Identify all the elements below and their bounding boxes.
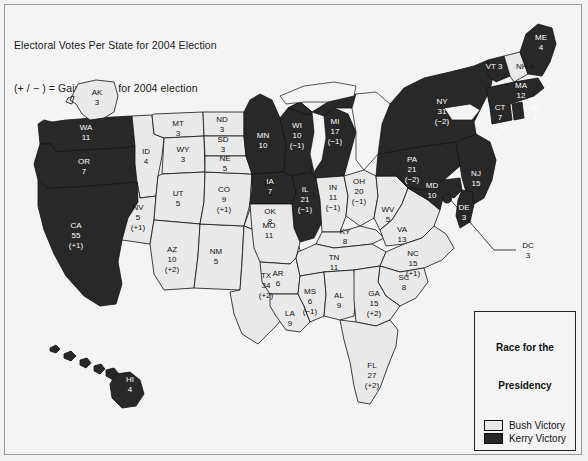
state-RI[interactable] <box>512 102 524 120</box>
label-AR-votes: 6 <box>276 279 281 288</box>
label-OR-name: OR <box>78 157 90 166</box>
label-IA-name: IA <box>266 177 274 186</box>
label-OH-votes: 20 <box>355 187 364 196</box>
state-DC-dot[interactable] <box>443 194 452 203</box>
label-MD-name: MD <box>426 181 439 190</box>
label-NM-name: NM <box>210 247 223 256</box>
label-AZ-name: AZ <box>167 245 177 254</box>
label-NC-name: NC <box>407 249 419 258</box>
label-WI-votes: 10 <box>293 131 302 140</box>
label-CO-change: (+1) <box>217 205 232 214</box>
label-LA-name: LA <box>285 309 295 318</box>
label-ID-votes: 4 <box>144 157 149 166</box>
label-TN-votes: 11 <box>330 263 339 272</box>
label-WY-votes: 3 <box>181 155 186 164</box>
label-VT: VT 3 <box>486 62 503 71</box>
label-CA-votes: 55 <box>72 231 81 240</box>
label-ND-votes: 3 <box>220 125 225 134</box>
label-GA-name: GA <box>368 289 380 298</box>
label-CA-change: (+1) <box>69 241 84 250</box>
label-GA-votes: 15 <box>370 299 379 308</box>
label-IL-change: (−1) <box>298 205 313 214</box>
label-NH: NH 4 <box>516 62 535 71</box>
label-AR-name: AR <box>272 269 283 278</box>
label-WA-name: WA <box>80 123 93 132</box>
label-IN-change: (−1) <box>326 203 341 212</box>
label-MN-name: MN <box>257 131 270 140</box>
label-SC-votes: 8 <box>402 283 407 292</box>
label-MI-change: (−1) <box>328 137 343 146</box>
legend-title-line1: Race for the <box>484 342 566 355</box>
label-NV-votes: 5 <box>136 213 141 222</box>
label-ND-name: ND <box>216 115 228 124</box>
label-TX-votes: 34 <box>262 281 271 290</box>
legend-row-bush[interactable]: Bush Victory <box>484 420 566 431</box>
legend-row-kerry[interactable]: Kerry Victory <box>484 433 566 444</box>
label-TX-change: (+2) <box>259 291 274 300</box>
label-DC-votes: 3 <box>526 251 531 260</box>
label-MS-change: (−1) <box>303 307 318 316</box>
label-CT-votes: 7 <box>498 113 503 122</box>
legend-title: Race for the Presidency <box>484 317 566 417</box>
label-WI-change: (−1) <box>290 141 305 150</box>
label-CO-name: CO <box>218 185 230 194</box>
label-ME-name: ME <box>535 33 547 42</box>
label-NC-votes: 15 <box>409 259 418 268</box>
state-AK[interactable] <box>66 80 118 120</box>
label-CT-name: CT <box>495 103 506 112</box>
label-NY-votes: 31 <box>438 107 447 116</box>
label-PA-votes: 21 <box>408 165 417 174</box>
label-OH-name: OH <box>353 177 365 186</box>
label-MO-votes: 11 <box>265 231 274 240</box>
state-NM[interactable] <box>194 224 244 290</box>
label-RI-name: RI <box>531 103 539 112</box>
label-MN-votes: 10 <box>259 141 268 150</box>
label-IL-name: IL <box>302 185 309 194</box>
label-NJ-name: NJ <box>471 169 481 178</box>
label-IL-votes: 21 <box>301 195 310 204</box>
label-AZ-votes: 10 <box>168 255 177 264</box>
label-NE-name: NE <box>219 154 230 163</box>
label-HI-name: HI <box>126 375 134 384</box>
map-legend: Race for the Presidency Bush Victory Ker… <box>474 311 576 451</box>
label-CT-change: (−1) <box>493 123 508 132</box>
label-FL-change: (+2) <box>365 381 380 390</box>
label-DE-name: DE <box>458 203 469 212</box>
label-CA-name: CA <box>70 221 82 230</box>
label-RI-votes: 4 <box>533 113 538 122</box>
label-FL-votes: 27 <box>368 371 377 380</box>
label-NJ-votes: 15 <box>472 179 481 188</box>
label-KY-votes: 8 <box>343 237 348 246</box>
label-AK-name: AK <box>92 88 103 97</box>
label-MI-votes: 17 <box>331 127 340 136</box>
label-KY-name: KY <box>340 227 351 236</box>
label-OK-name: OK <box>264 207 276 216</box>
label-IN-name: IN <box>329 183 337 192</box>
label-WV-votes: 5 <box>386 215 391 224</box>
label-TX-name: TX <box>261 271 272 280</box>
legend-title-line2: Presidency <box>484 380 566 393</box>
label-LA-votes: 9 <box>288 319 293 328</box>
label-PA-change: (−2) <box>405 175 420 184</box>
label-CO-votes: 9 <box>222 195 227 204</box>
label-IN-votes: 11 <box>329 193 338 202</box>
label-MS-votes: 6 <box>308 297 313 306</box>
label-MA-votes: 12 <box>517 91 526 100</box>
label-NY-name: NY <box>436 97 448 106</box>
state-CA[interactable] <box>38 180 138 306</box>
label-AK-votes: 3 <box>95 98 100 107</box>
label-NV-change: (+1) <box>131 223 146 232</box>
label-MO-name: MO <box>263 221 276 230</box>
legend-bush-label: Bush Victory <box>509 420 565 431</box>
label-WA-votes: 11 <box>82 133 91 142</box>
label-FL-name: FL <box>367 361 377 370</box>
label-WI-name: WI <box>292 121 302 130</box>
label-UT-name: UT <box>173 189 184 198</box>
label-NM-votes: 5 <box>214 257 219 266</box>
label-MT-name: MT <box>172 119 184 128</box>
label-WV-name: WV <box>382 205 396 214</box>
label-WY-name: WY <box>177 145 191 154</box>
label-NY-change: (−2) <box>435 117 450 126</box>
label-PA-name: PA <box>407 155 418 164</box>
label-AL-name: AL <box>334 291 344 300</box>
